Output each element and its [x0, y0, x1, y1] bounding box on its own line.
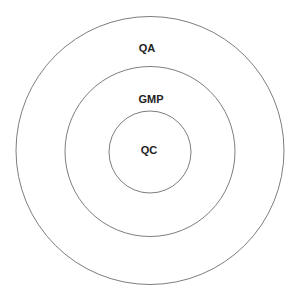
label-qa: QA [139, 42, 156, 54]
concentric-circles-diagram: QA GMP QC [0, 0, 300, 301]
label-gmp: GMP [138, 93, 163, 105]
label-qc: QC [141, 144, 158, 156]
